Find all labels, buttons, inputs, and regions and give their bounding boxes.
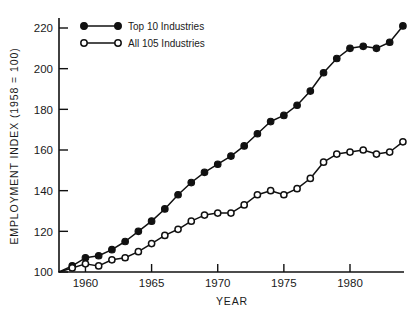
- data-point: [387, 149, 393, 155]
- y-tick-label-200: 200: [34, 63, 53, 75]
- data-point: [201, 212, 207, 218]
- legend-item-top-10-industries: Top 10 Industries: [81, 21, 205, 32]
- data-point: [148, 240, 154, 246]
- y-tick-label-180: 180: [34, 104, 53, 116]
- y-tick-label-220: 220: [34, 22, 53, 34]
- data-point: [373, 45, 380, 52]
- data-point: [294, 102, 301, 109]
- data-point: [254, 130, 261, 137]
- data-point: [82, 261, 88, 267]
- y-tick-label-120: 120: [34, 226, 53, 238]
- employment-index-chart: 100120140160180200220 196019651970197519…: [0, 0, 416, 317]
- y-tick-label-100: 100: [34, 266, 53, 278]
- data-point: [241, 143, 248, 150]
- data-point: [373, 151, 379, 157]
- data-point: [188, 218, 194, 224]
- x-tick-label-1975: 1975: [271, 277, 297, 289]
- data-point: [109, 246, 116, 253]
- data-point: [347, 45, 354, 52]
- data-point: [334, 151, 340, 157]
- x-tick-label-1970: 1970: [205, 277, 231, 289]
- y-axis-tick-labels: 100120140160180200220: [34, 22, 53, 278]
- y-axis-title: EMPLOYMENT INDEX (1958 = 100): [8, 47, 20, 244]
- x-axis-tick-labels: 19601965197019751980: [73, 277, 363, 289]
- y-tick-label-140: 140: [34, 185, 53, 197]
- data-point: [294, 186, 300, 192]
- data-point: [267, 118, 274, 125]
- filled-circle-icon: [115, 23, 122, 30]
- data-point: [215, 210, 221, 216]
- x-axis-ticks: [85, 264, 350, 272]
- data-point: [201, 169, 208, 176]
- chart-canvas: 100120140160180200220 196019651970197519…: [0, 0, 416, 317]
- data-point: [400, 139, 406, 145]
- data-point: [228, 210, 234, 216]
- data-point: [214, 161, 221, 168]
- x-tick-label-1965: 1965: [139, 277, 165, 289]
- data-point: [175, 191, 182, 198]
- data-point: [122, 238, 129, 245]
- data-point: [96, 263, 102, 269]
- data-point: [360, 43, 367, 50]
- data-point: [320, 159, 326, 165]
- data-point: [360, 147, 366, 153]
- x-axis-title: YEAR: [216, 295, 248, 307]
- data-point: [135, 228, 142, 235]
- data-point: [162, 232, 168, 238]
- data-point: [281, 112, 288, 119]
- axis-lines: [59, 18, 404, 272]
- data-point: [347, 149, 353, 155]
- x-tick-label-1980: 1980: [337, 277, 363, 289]
- data-point: [333, 55, 340, 62]
- data-point: [241, 202, 247, 208]
- filled-circle-icon: [81, 23, 88, 30]
- data-point: [307, 175, 313, 181]
- y-tick-label-160: 160: [34, 144, 53, 156]
- legend-label: All 105 Industries: [128, 38, 205, 49]
- series-top-10-industries: [59, 23, 406, 272]
- data-point: [281, 192, 287, 198]
- data-point: [386, 39, 393, 46]
- data-point: [69, 265, 75, 271]
- y-axis-ticks: [59, 28, 68, 272]
- open-circle-icon: [115, 40, 121, 46]
- data-point: [175, 226, 181, 232]
- data-point: [162, 206, 169, 213]
- data-point: [109, 257, 115, 263]
- legend-label: Top 10 Industries: [128, 21, 204, 32]
- chart-legend: Top 10 IndustriesAll 105 Industries: [81, 21, 205, 49]
- data-point: [400, 23, 407, 30]
- data-series-layer: [59, 23, 406, 272]
- data-point: [148, 218, 155, 225]
- data-point: [188, 179, 195, 186]
- open-circle-icon: [81, 40, 87, 46]
- data-point: [135, 249, 141, 255]
- data-point: [228, 153, 235, 160]
- data-point: [122, 255, 128, 261]
- data-point: [268, 188, 274, 194]
- data-point: [320, 69, 327, 76]
- legend-item-all-105-industries: All 105 Industries: [81, 38, 205, 49]
- data-point: [95, 252, 102, 259]
- x-tick-label-1960: 1960: [73, 277, 99, 289]
- data-point: [307, 88, 314, 95]
- data-point: [254, 192, 260, 198]
